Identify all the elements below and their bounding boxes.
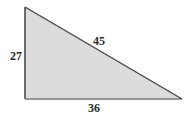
hypotenuse-label: 45 [93,35,105,47]
vertical-leg-label: 27 [10,50,22,62]
horizontal-leg-label: 36 [88,102,100,114]
